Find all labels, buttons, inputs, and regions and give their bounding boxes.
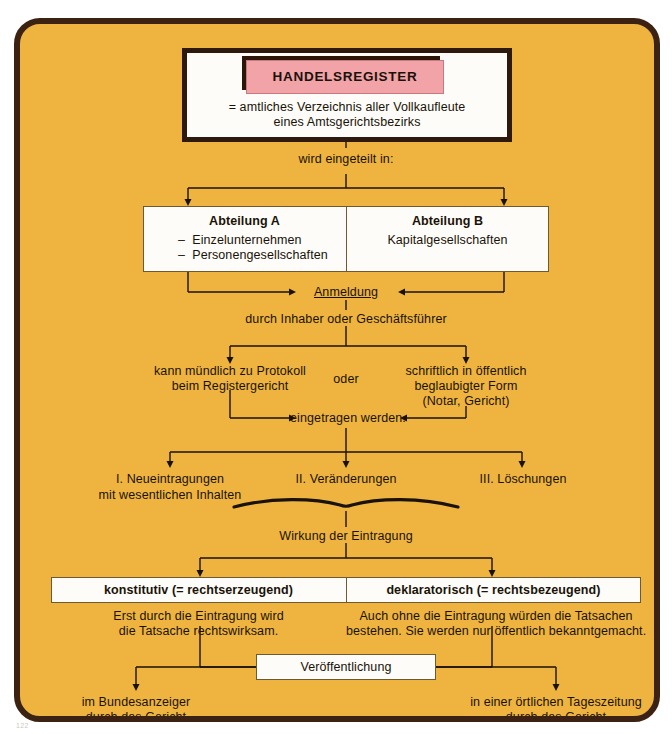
registration-conjunction: oder [316,372,376,387]
registration-option-right-line1: schriftlich in öffentlich [376,364,556,379]
department-a-item-0: – Einzelunternehmen [178,233,358,248]
registration-option-right-line3: (Notar, Gericht) [376,394,556,409]
entry-type-3-line1: III. Löschungen [444,472,602,487]
department-b-heading: Abteilung B [346,214,549,229]
entry-type-1-line2: mit wesentlichen Inhalten [78,488,262,503]
registration-option-right-line2: beglaubigter Form [376,379,556,394]
effect-konstitutiv-desc-line1: Erst durch die Eintragung wird [51,609,346,624]
divide-label: wird eingeteilt in: [226,152,466,167]
registration-result: eingetragen werden. [286,411,410,426]
effect-konstitutiv-desc-line2: die Tatsache rechtswirksam. [51,624,346,639]
publication-left-line1: im Bundesanzeiger [56,695,216,710]
publication-right-line2: durch das Gericht [450,710,660,722]
effect-deklaratorisch-desc-line1: Auch ohne die Eintragung würden die Tats… [346,609,646,624]
publication-left-line2: durch das Gericht [56,710,216,722]
publication-label: Veröffentlichung [256,660,436,675]
registration-option-left-line2: beim Registergericht [130,379,330,394]
department-a-item-1: – Personengesellschaften [178,248,358,263]
effect-deklaratorisch-desc-line2: bestehen. Sie werden nur öffentlich beka… [346,624,646,639]
registration-by: durch Inhaber oder Geschäftsführer [206,312,486,327]
entry-type-2-line1: II. Veränderungen [266,472,426,487]
department-b-item-0: Kapitalgesellschaften [346,233,549,248]
effect-konstitutiv-heading: konstitutiv (= rechtserzeugend) [51,583,346,598]
header-subtitle-line1: = amtliches Verzeichnis aller Vollkaufle… [182,100,512,115]
registration-label: Anmeldung [286,285,406,300]
department-a-heading: Abteilung A [143,214,346,229]
publication-right-line1: in einer örtlichen Tageszeitung [450,695,660,710]
effect-label: Wirkung der Eintragung [246,529,446,544]
registration-option-left-line1: kann mündlich zu Protokoll [130,364,330,379]
page-number-artifact: 122 [16,722,50,731]
diagram-frame: HANDELSREGISTER = amtliches Verzeichnis … [14,18,660,722]
scanned-page: HANDELSREGISTER = amtliches Verzeichnis … [0,0,672,734]
page-title: HANDELSREGISTER [246,60,444,94]
entry-type-1-line1: I. Neueintragungen [90,472,250,487]
header-subtitle-line2: eines Amtsgerichtsbezirks [182,115,512,130]
effect-deklaratorisch-heading: deklaratorisch (= rechtsbezeugend) [346,583,641,598]
